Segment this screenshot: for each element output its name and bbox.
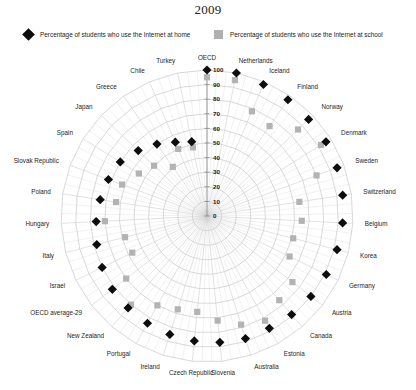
- grid-spoke: [207, 139, 331, 216]
- axis-category-label: New Zealand: [67, 332, 105, 339]
- data-point-school: [175, 146, 181, 152]
- axis-category-label: Poland: [31, 188, 51, 195]
- data-point-school: [123, 275, 129, 281]
- data-point-school: [299, 218, 305, 224]
- data-point-school: [151, 163, 157, 169]
- axis-category-label: Denmark: [341, 129, 367, 136]
- axis-category-label: Finland: [297, 83, 318, 90]
- axis-category-label: Belgium: [365, 220, 388, 228]
- legend-label-school: Percentage of students who use the Inter…: [230, 31, 383, 38]
- radial-tick-label: 100: [213, 66, 224, 73]
- radial-tick-label: 80: [213, 95, 220, 102]
- radial-tick-label: 40: [213, 154, 220, 161]
- data-point-school: [102, 218, 108, 224]
- axis-category-label: Turkey: [156, 57, 176, 65]
- data-point-home: [332, 245, 341, 254]
- data-point-home: [332, 163, 341, 172]
- data-point-home: [265, 324, 274, 333]
- data-point-home: [143, 319, 152, 328]
- axis-category-label: Greece: [96, 83, 117, 90]
- radial-tick-label: 50: [213, 139, 220, 146]
- data-point-school: [194, 309, 200, 315]
- axis-category-label: Estonia: [284, 350, 306, 357]
- grid-spoke: [66, 216, 207, 253]
- data-point-school: [238, 322, 244, 328]
- legend-label-home: Percentage of students who use the Inter…: [40, 31, 190, 38]
- axis-category-label: Slovak Republic: [14, 157, 59, 165]
- data-point-school: [286, 253, 292, 259]
- axis-category-label: Ireland: [140, 363, 160, 370]
- axis-category-label: Chile: [130, 67, 145, 74]
- axis-category-label: Israel: [50, 282, 65, 289]
- data-point-school: [313, 172, 319, 178]
- data-point-home: [108, 285, 117, 294]
- radial-tick-label: 70: [213, 110, 220, 117]
- data-point-school: [289, 279, 295, 285]
- data-point-home: [232, 68, 241, 77]
- data-point-school: [295, 126, 301, 132]
- data-point-home: [104, 175, 113, 184]
- square-marker-icon: [214, 30, 223, 39]
- data-point-home: [171, 138, 180, 147]
- axis-category-label: Slovenia: [211, 369, 236, 376]
- data-point-school: [249, 108, 255, 114]
- data-point-school: [215, 317, 221, 323]
- axis-category-label: OECD: [198, 54, 217, 61]
- data-point-school: [129, 250, 135, 256]
- data-point-school: [232, 77, 238, 83]
- data-point-home: [190, 336, 199, 345]
- polar-plot-canvas: 0102030405060708090100OECDNetherlandsIce…: [0, 44, 416, 390]
- data-point-school: [262, 318, 268, 324]
- data-point-school: [119, 181, 125, 187]
- data-point-school: [122, 234, 128, 240]
- axis-category-label: Germany: [349, 282, 376, 290]
- axis-category-label: OECD average-29: [30, 309, 82, 317]
- axis-category-label: Portugal: [107, 350, 130, 358]
- data-point-home: [98, 263, 107, 272]
- data-point-school: [175, 306, 181, 312]
- data-point-school: [154, 302, 160, 308]
- radial-tick-label: 60: [213, 125, 220, 132]
- data-point-home: [202, 65, 211, 74]
- axis-category-label: Netherlands: [239, 57, 273, 64]
- axis-category-label: Australia: [254, 363, 279, 370]
- axis-category-label: Iceland: [269, 67, 290, 74]
- data-point-home: [338, 191, 347, 200]
- data-point-school: [296, 199, 302, 205]
- axis-category-label: Norway: [322, 103, 344, 111]
- data-point-home: [215, 338, 224, 347]
- data-point-home: [241, 334, 250, 343]
- data-point-home: [338, 218, 347, 227]
- axis-category-label: Korea: [360, 252, 377, 259]
- data-point-home: [322, 270, 331, 279]
- data-point-school: [170, 164, 176, 170]
- radial-tick-label: 30: [213, 168, 220, 175]
- axis-category-label: Canada: [310, 332, 333, 339]
- data-point-school: [136, 170, 142, 176]
- grid-spoke: [207, 216, 302, 327]
- axis-category-label: Spain: [57, 129, 74, 137]
- radial-tick-label: 90: [213, 81, 220, 88]
- data-point-school: [290, 235, 296, 241]
- axis-category-label: Italy: [42, 252, 54, 260]
- legend-item-home: Percentage of students who use the Inter…: [24, 30, 190, 39]
- page-title: 2009: [0, 2, 416, 18]
- data-point-home: [96, 195, 105, 204]
- axis-category-label: Hungary: [25, 220, 50, 228]
- axis-category-label: Japan: [75, 103, 93, 111]
- grid-spoke: [207, 216, 251, 355]
- diamond-marker-icon: [22, 28, 35, 41]
- grid-spoke: [83, 139, 207, 216]
- grid-spoke: [207, 194, 351, 216]
- data-point-home: [287, 310, 296, 319]
- grid-spoke: [207, 216, 348, 253]
- radial-tick-label: 20: [213, 183, 220, 190]
- axis-category-label: Sweden: [355, 157, 378, 164]
- data-point-school: [276, 297, 282, 303]
- legend-item-school: Percentage of students who use the Inter…: [214, 30, 383, 39]
- chart-legend: Percentage of students who use the Inter…: [0, 29, 416, 45]
- data-point-school: [204, 74, 210, 80]
- radial-tick-label: 0: [213, 212, 217, 219]
- data-point-home: [92, 217, 101, 226]
- data-point-home: [116, 157, 125, 166]
